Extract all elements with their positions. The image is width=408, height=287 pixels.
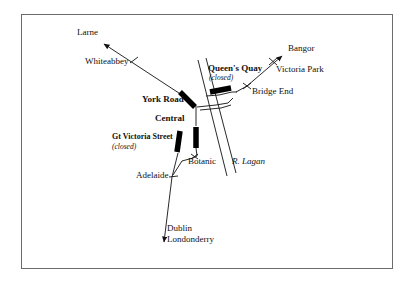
station-sublabel-queens-quay-closed: (closed) [209, 74, 233, 82]
station-tick-adelaide [169, 176, 178, 177]
station-sublabel-gt-victoria-street-closed: (closed) [112, 143, 136, 151]
station-tick-whiteabbey [130, 57, 138, 63]
station-label-york-road: York Road [142, 95, 184, 104]
destination-label-bangor: Bangor [288, 44, 315, 53]
rail-line-larne [104, 44, 188, 99]
station-label-botanic: Botanic [188, 157, 216, 166]
station-bar-gt-victoria-street [177, 131, 180, 152]
feature-label-river-lagan: R. Lagan [232, 157, 265, 166]
station-label-adelaide: Adelaide [136, 171, 168, 180]
destination-label-londonderry: Londonderry [167, 235, 214, 244]
station-bar-queens-quay [210, 88, 231, 92]
destination-label-larne: Larne [77, 28, 98, 37]
station-label-bridge-end: Bridge End [252, 87, 293, 96]
destination-label-dublin: Dublin [167, 224, 192, 233]
station-label-gt-victoria-street: Gt Victoria Street [112, 133, 173, 141]
station-label-victoria-park: Victoria Park [276, 65, 324, 74]
station-label-central: Central [155, 114, 185, 123]
station-label-whiteabbey: Whiteabbey [85, 57, 128, 66]
map-page: Larne Bangor Dublin Londonderry Whiteabb… [0, 0, 408, 287]
